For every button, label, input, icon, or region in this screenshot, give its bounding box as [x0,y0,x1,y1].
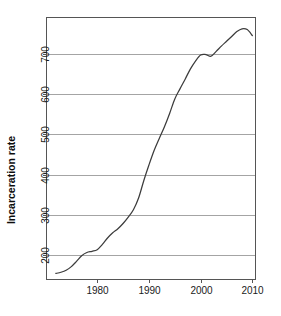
y-tick-label-200: 200 [40,247,51,264]
x-tick-label-1980: 1980 [86,285,109,296]
y-tick-label-500: 500 [40,126,51,143]
x-tick-label-2000: 2000 [190,285,213,296]
y-tick-label-300: 300 [40,207,51,224]
incarceration-rate-line-chart: Incarceration rate 200300400500600700 19… [0,0,281,316]
y-axis-title: Incarceration rate [5,136,17,224]
chart-figure: Incarceration rate 200300400500600700 19… [0,0,281,316]
y-tick-label-400: 400 [40,167,51,184]
y-tick-label-700: 700 [40,46,51,63]
x-tick-label-1990: 1990 [138,285,161,296]
x-tick-label-2010: 2010 [241,285,264,296]
y-tick-label-600: 600 [40,86,51,103]
